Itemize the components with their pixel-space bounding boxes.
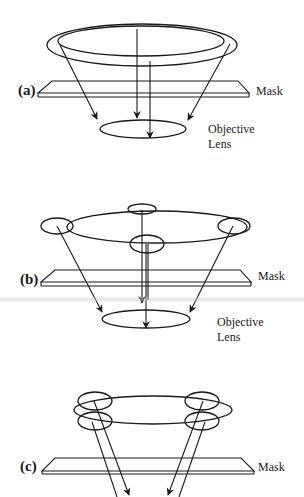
diagram-canvas: [0, 0, 304, 497]
annular-source-a: [47, 24, 237, 66]
light-rays-a: [60, 29, 230, 138]
panel-a: [38, 24, 249, 138]
lens-label-a-line2: Lens: [208, 137, 231, 152]
lens-label-b-line2: Lens: [217, 330, 240, 345]
mask-plane-c: [42, 458, 254, 474]
mask-plane-a: [38, 81, 249, 97]
scan-artifact: [0, 296, 304, 303]
objective-lens-a: [100, 120, 186, 138]
mask-label-a: Mask: [256, 85, 283, 97]
panel-b: [41, 204, 251, 328]
mask-label-b: Mask: [258, 270, 285, 282]
panel-c: [42, 392, 254, 497]
mask-label-c: Mask: [258, 461, 285, 473]
panel-label-a: (a): [18, 83, 36, 98]
lens-label-b-line1: Objective: [217, 315, 264, 330]
figure: (a) Mask Objective Lens (b) Mask Objecti…: [0, 0, 304, 497]
lens-label-a-line1: Objective: [208, 122, 255, 137]
panel-label-c: (c): [20, 459, 37, 474]
panel-label-b: (b): [20, 272, 38, 287]
pole-right: [218, 218, 250, 234]
pole-front: [130, 235, 164, 253]
